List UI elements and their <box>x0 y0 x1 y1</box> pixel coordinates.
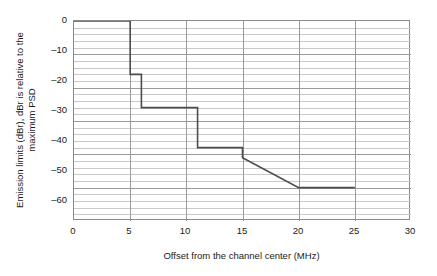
y-tick-label-m10: –10 <box>37 45 67 55</box>
y-tick-label-m60: –60 <box>37 195 67 205</box>
y-tick-label-m30: –30 <box>37 105 67 115</box>
y-tick-label-m20: –20 <box>37 75 67 85</box>
x-tick-label-5: 5 <box>114 226 144 236</box>
x-tick-label-30: 30 <box>395 226 425 236</box>
x-tick-label-10: 10 <box>170 226 200 236</box>
x-axis-tick-labels: 0 5 10 15 20 25 30 <box>73 226 423 240</box>
y-tick-label-0: 0 <box>37 15 67 25</box>
plot-area <box>73 20 410 220</box>
y-tick-label-m50: –50 <box>37 165 67 175</box>
x-tick-label-25: 25 <box>339 226 369 236</box>
x-tick-label-20: 20 <box>283 226 313 236</box>
y-axis-title-line-1: Emission limits (dBr), dBr is relative t… <box>14 32 26 208</box>
y-tick-label-m40: –40 <box>37 135 67 145</box>
series-line-0 <box>74 21 355 188</box>
series-group <box>74 21 355 188</box>
emission-limits-chart: Emission limits (dBr), dBr is relative t… <box>0 0 437 276</box>
x-tick-label-15: 15 <box>227 226 257 236</box>
plot-svg <box>74 21 411 221</box>
x-axis-title: Offset from the channel center (MHz) <box>73 250 410 261</box>
x-tick-label-0: 0 <box>58 226 88 236</box>
